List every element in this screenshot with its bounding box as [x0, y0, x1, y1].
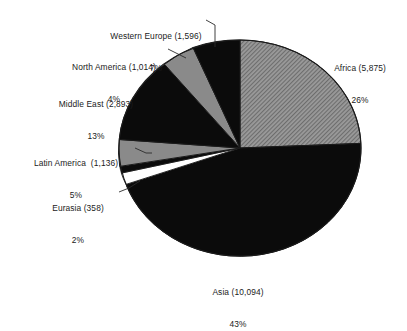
slice-label-asia: Asia (10,094) 43% [192, 266, 284, 331]
slice-label-africa-percent: 26% [320, 95, 400, 106]
slice-label-eurasia: Eurasia (358) 2% [39, 182, 117, 266]
slice-label-asia-percent: 43% [192, 319, 284, 330]
slice-label-western-europe-name: Western Europe (1,596) [102, 31, 210, 42]
slice-label-asia-name: Asia (10,094) [192, 287, 284, 298]
slice-label-north-america-name: North America (1,014) [62, 62, 166, 73]
slice-label-africa: Africa (5,875) 26% [320, 42, 400, 126]
slice-label-africa-name: Africa (5,875) [320, 63, 400, 74]
slice-label-middle-east-name: Middle East (2,893) [48, 99, 144, 110]
slice-label-latin-america-name: Latin America (1,136) [21, 158, 131, 169]
slice-label-eurasia-name: Eurasia (358) [39, 203, 117, 214]
slice-label-eurasia-percent: 2% [39, 235, 117, 246]
